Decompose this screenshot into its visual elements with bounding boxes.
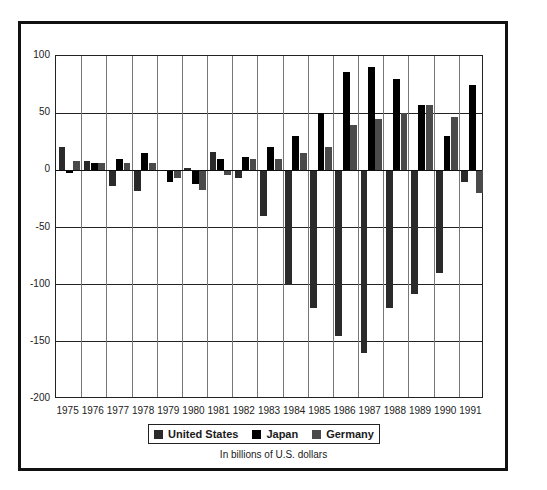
- bar-germany-1990: [451, 117, 458, 171]
- legend-label: Germany: [326, 428, 374, 440]
- x-tick-label: 1988: [382, 405, 407, 416]
- gridline-vertical: [232, 56, 233, 397]
- bar-united-states-1977: [109, 170, 116, 186]
- bar-japan-1988: [393, 79, 400, 170]
- legend-swatch-icon: [312, 430, 321, 439]
- x-tick-label: 1979: [156, 405, 181, 416]
- bar-japan-1989: [418, 105, 425, 170]
- y-tick-label: 100: [10, 49, 50, 60]
- bar-germany-1979: [174, 170, 181, 178]
- bar-united-states-1986: [335, 170, 342, 336]
- legend-item-germany: Germany: [312, 428, 374, 440]
- bar-germany-1989: [426, 105, 433, 170]
- gridline-vertical: [157, 56, 158, 397]
- bar-united-states-1982: [235, 170, 242, 178]
- gridline-vertical: [308, 56, 309, 397]
- bar-japan-1984: [292, 136, 299, 170]
- bar-united-states-1985: [310, 170, 317, 307]
- bar-united-states-1984: [285, 170, 292, 284]
- legend-swatch-icon: [154, 430, 163, 439]
- gridline-vertical: [408, 56, 409, 397]
- gridline-vertical: [81, 56, 82, 397]
- bar-germany-1985: [325, 147, 332, 170]
- gridline-vertical: [358, 56, 359, 397]
- bar-germany-1981: [224, 170, 231, 175]
- x-tick-label: 1989: [408, 405, 433, 416]
- bar-japan-1991: [469, 85, 476, 171]
- x-tick-label: 1986: [332, 405, 357, 416]
- bar-germany-1983: [275, 159, 282, 170]
- gridline-horizontal: [56, 341, 482, 342]
- legend-item-japan: Japan: [252, 428, 298, 440]
- bar-germany-1980: [199, 170, 206, 189]
- bar-united-states-1975: [59, 147, 66, 170]
- gridline-horizontal: [56, 284, 482, 285]
- gridline-vertical: [182, 56, 183, 397]
- x-tick-label: 1987: [357, 405, 382, 416]
- y-tick-label: 0: [10, 163, 50, 174]
- y-tick-label: -200: [10, 392, 50, 403]
- y-tick-label: -50: [10, 221, 50, 232]
- x-tick-label: 1990: [433, 405, 458, 416]
- bar-japan-1982: [242, 157, 249, 171]
- bar-japan-1978: [141, 153, 148, 170]
- bar-germany-1982: [250, 159, 257, 170]
- bar-united-states-1991: [461, 170, 468, 181]
- bar-japan-1983: [267, 147, 274, 170]
- gridline-vertical: [106, 56, 107, 397]
- bar-united-states-1981: [210, 152, 217, 170]
- zero-line: [56, 170, 482, 171]
- gridline-vertical: [333, 56, 334, 397]
- gridline-vertical: [132, 56, 133, 397]
- bar-japan-1990: [444, 136, 451, 170]
- bar-germany-1984: [300, 153, 307, 170]
- x-tick-label: 1978: [131, 405, 156, 416]
- x-tick-label: 1980: [181, 405, 206, 416]
- x-tick-label: 1981: [206, 405, 231, 416]
- legend: United States Japan Germany: [148, 424, 380, 444]
- bar-united-states-1990: [436, 170, 443, 273]
- bar-united-states-1989: [411, 170, 418, 293]
- bar-united-states-1987: [361, 170, 368, 353]
- gridline-vertical: [459, 56, 460, 397]
- bar-united-states-1988: [386, 170, 393, 307]
- y-tick-label: -150: [10, 335, 50, 346]
- gridline-vertical: [257, 56, 258, 397]
- x-tick-label: 1982: [231, 405, 256, 416]
- x-tick-label: 1985: [307, 405, 332, 416]
- bar-japan-1987: [368, 67, 375, 170]
- bar-japan-1981: [217, 159, 224, 170]
- legend-swatch-icon: [252, 430, 261, 439]
- legend-label: United States: [168, 428, 238, 440]
- x-tick-label: 1984: [282, 405, 307, 416]
- gridline-horizontal: [56, 227, 482, 228]
- bar-japan-1980: [192, 170, 199, 184]
- bar-germany-1987: [375, 119, 382, 170]
- bar-germany-1986: [350, 125, 357, 171]
- bar-japan-1979: [167, 170, 174, 181]
- chart-caption: In billions of U.S. dollars: [0, 449, 547, 460]
- bar-japan-1977: [116, 159, 123, 170]
- gridline-vertical: [207, 56, 208, 397]
- gridline-vertical: [383, 56, 384, 397]
- bar-japan-1985: [318, 113, 325, 170]
- bar-united-states-1983: [260, 170, 267, 216]
- x-tick-label: 1975: [55, 405, 80, 416]
- bar-germany-1988: [401, 113, 408, 170]
- gridline-vertical: [434, 56, 435, 397]
- plot-area: [55, 55, 483, 398]
- gridline-vertical: [283, 56, 284, 397]
- y-tick-label: 50: [10, 106, 50, 117]
- y-tick-label: -100: [10, 278, 50, 289]
- bar-japan-1986: [343, 72, 350, 170]
- bar-germany-1991: [476, 170, 483, 193]
- x-tick-label: 1991: [458, 405, 483, 416]
- x-tick-label: 1977: [105, 405, 130, 416]
- legend-label: Japan: [266, 428, 298, 440]
- x-tick-label: 1983: [257, 405, 282, 416]
- bar-united-states-1978: [134, 170, 141, 191]
- x-tick-label: 1976: [80, 405, 105, 416]
- legend-item-united-states: United States: [154, 428, 238, 440]
